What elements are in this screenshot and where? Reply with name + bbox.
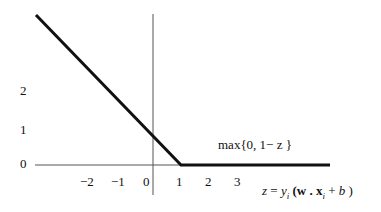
x-tick-neg1: −1 xyxy=(111,175,125,188)
equals-sign: = xyxy=(270,183,277,198)
x-tick-2: 2 xyxy=(205,175,212,188)
function-label: max{0, 1− z } xyxy=(218,138,292,151)
hinge-loss-plot xyxy=(0,0,381,212)
z-symbol: z xyxy=(262,183,267,198)
x-tick-neg2: −2 xyxy=(80,175,94,188)
dot-operator: . xyxy=(309,183,312,198)
x-tick-3: 3 xyxy=(234,175,241,188)
x-tick-1: 1 xyxy=(176,175,183,188)
y-tick-0: 0 xyxy=(20,157,27,170)
i-subscript: i xyxy=(322,191,325,201)
x-tick-0: 0 xyxy=(143,175,150,188)
y-tick-2: 2 xyxy=(20,84,27,97)
i-subscript: i xyxy=(287,191,290,201)
y-tick-1: 1 xyxy=(20,123,27,136)
x-axis-label: z = yi (w . xi + b ) xyxy=(262,184,353,203)
b-symbol: b xyxy=(339,183,346,198)
w-symbol: w xyxy=(297,183,306,198)
close-paren: ) xyxy=(349,183,353,198)
plus-sign: + xyxy=(328,183,335,198)
